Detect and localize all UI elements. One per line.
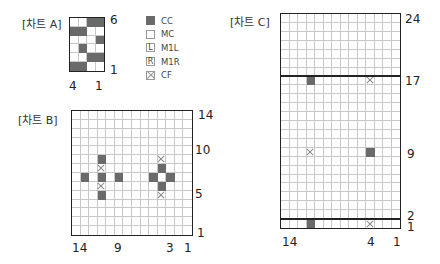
mc-stitch-cell (349, 103, 358, 112)
mc-stitch-cell (166, 120, 175, 129)
mc-stitch-cell (341, 85, 350, 94)
mc-stitch-cell (307, 32, 316, 41)
chart-c-grid (280, 13, 401, 229)
mc-stitch-cell (290, 183, 299, 192)
legend-cc-icon (146, 16, 155, 25)
mc-stitch-cell (183, 191, 192, 200)
mc-stitch-cell (98, 146, 107, 155)
mc-stitch-cell (115, 111, 124, 120)
mc-stitch-cell (290, 41, 299, 50)
mc-stitch-cell (375, 166, 384, 175)
mc-stitch-cell (298, 166, 307, 175)
mc-stitch-cell (332, 130, 341, 139)
chart-b-grid (71, 110, 193, 236)
chart-c-row-label-24: 24 (405, 13, 420, 25)
mc-stitch-cell (358, 94, 367, 103)
mc-stitch-cell (332, 50, 341, 59)
mc-stitch-cell (332, 85, 341, 94)
mc-stitch-cell (115, 120, 124, 129)
mc-stitch-cell (341, 76, 350, 85)
mc-stitch-cell (392, 148, 401, 157)
mc-stitch-cell (158, 217, 167, 226)
mc-stitch-cell (366, 41, 375, 50)
mc-stitch-cell (392, 130, 401, 139)
mc-stitch-cell (175, 164, 184, 173)
mc-stitch-cell (72, 129, 81, 138)
mc-stitch-cell (332, 183, 341, 192)
mc-stitch-cell (341, 139, 350, 148)
mc-stitch-cell (106, 217, 115, 226)
mc-stitch-cell (315, 32, 324, 41)
mc-stitch-cell (98, 120, 107, 129)
mc-stitch-cell (290, 85, 299, 94)
mc-stitch-cell (349, 201, 358, 210)
mc-stitch-cell (341, 103, 350, 112)
mc-stitch-cell (123, 164, 132, 173)
mc-stitch-cell (281, 14, 290, 23)
mc-stitch-cell (106, 208, 115, 217)
mc-stitch-cell (349, 130, 358, 139)
legend-item-m1l: LM1L (146, 41, 180, 55)
mc-stitch-cell (149, 138, 158, 147)
mc-stitch-cell (324, 41, 333, 50)
chart-a-col-label-4: 4 (69, 80, 77, 92)
mc-stitch-cell (375, 103, 384, 112)
mc-stitch-cell (72, 164, 81, 173)
mc-stitch-cell (123, 173, 132, 182)
mc-stitch-cell (298, 32, 307, 41)
mc-stitch-cell (315, 50, 324, 59)
mc-stitch-cell (70, 18, 79, 27)
mc-stitch-cell (383, 94, 392, 103)
mc-stitch-cell (123, 111, 132, 120)
mc-stitch-cell (324, 103, 333, 112)
mc-stitch-cell (298, 50, 307, 59)
mc-stitch-cell (307, 85, 316, 94)
mc-stitch-cell (281, 59, 290, 68)
mc-stitch-cell (349, 112, 358, 121)
cc-stitch-cell (96, 18, 105, 27)
mc-stitch-cell (324, 94, 333, 103)
mc-stitch-cell (115, 226, 124, 235)
mc-stitch-cell (332, 192, 341, 201)
mc-stitch-cell (341, 112, 350, 121)
cc-stitch-cell (79, 27, 88, 36)
mc-stitch-cell (141, 146, 150, 155)
legend: CCMCLM1LRM1RCF (146, 14, 180, 82)
mc-stitch-cell (349, 157, 358, 166)
mc-stitch-cell (141, 129, 150, 138)
mc-stitch-cell (290, 32, 299, 41)
mc-stitch-cell (383, 192, 392, 201)
mc-stitch-cell (175, 155, 184, 164)
mc-stitch-cell (141, 226, 150, 235)
mc-stitch-cell (281, 139, 290, 148)
mc-stitch-cell (383, 85, 392, 94)
mc-stitch-cell (281, 175, 290, 184)
mc-stitch-cell (383, 183, 392, 192)
mc-stitch-cell (89, 208, 98, 217)
mc-stitch-cell (166, 164, 175, 173)
mc-stitch-cell (307, 157, 316, 166)
mc-stitch-cell (358, 157, 367, 166)
mc-stitch-cell (183, 226, 192, 235)
mc-stitch-cell (324, 219, 333, 228)
mc-stitch-cell (281, 112, 290, 121)
mc-stitch-cell (315, 166, 324, 175)
mc-stitch-cell (366, 201, 375, 210)
mc-stitch-cell (166, 208, 175, 217)
mc-stitch-cell (349, 14, 358, 23)
mc-stitch-cell (349, 85, 358, 94)
mc-stitch-cell (158, 208, 167, 217)
mc-stitch-cell (290, 76, 299, 85)
mc-stitch-cell (81, 111, 90, 120)
mc-stitch-cell (141, 182, 150, 191)
mc-stitch-cell (281, 50, 290, 59)
mc-stitch-cell (115, 155, 124, 164)
mc-stitch-cell (298, 183, 307, 192)
cc-stitch-cell (149, 173, 158, 182)
mc-stitch-cell (81, 155, 90, 164)
mc-stitch-cell (366, 112, 375, 121)
mc-stitch-cell (332, 139, 341, 148)
mc-stitch-cell (307, 50, 316, 59)
cc-stitch-cell (166, 173, 175, 182)
mc-stitch-cell (366, 14, 375, 23)
